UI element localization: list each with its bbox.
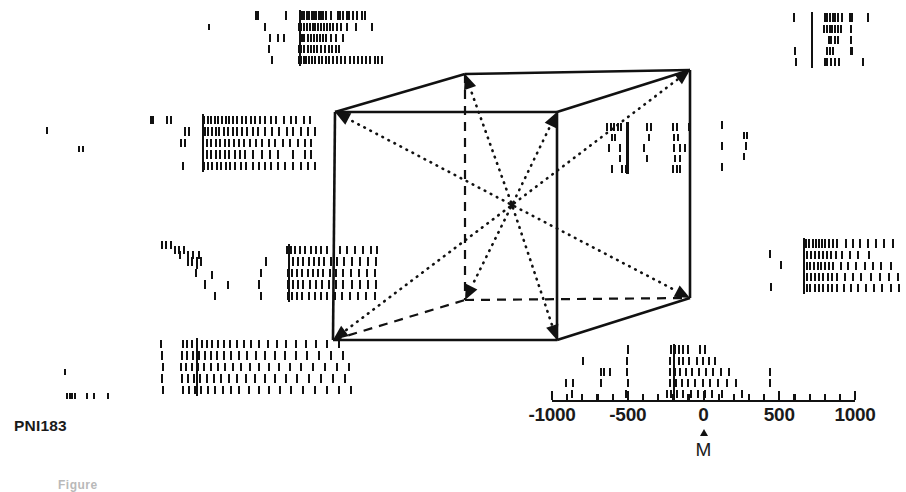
- axis-tick-minor: [581, 394, 583, 400]
- spike-mark: [332, 56, 334, 64]
- spike-mark: [685, 368, 687, 376]
- spike-mark: [669, 357, 671, 365]
- spike-mark: [249, 139, 251, 148]
- spike-mark: [845, 239, 847, 247]
- spike-mark: [234, 150, 236, 159]
- spike-mark: [250, 340, 252, 349]
- spike-mark: [252, 162, 254, 171]
- spike-mark: [216, 162, 218, 171]
- spike-mark: [682, 390, 684, 398]
- axis-tick-major: [703, 391, 705, 400]
- spike-mark: [745, 142, 747, 150]
- spike-mark: [735, 379, 737, 387]
- spike-mark: [225, 162, 227, 171]
- spike-mark: [326, 246, 328, 255]
- spike-mark: [880, 262, 882, 270]
- axis-tick-minor: [642, 394, 644, 400]
- spike-mark: [320, 45, 322, 53]
- spike-mark: [830, 58, 832, 66]
- spike-mark: [679, 368, 681, 376]
- spike-mark: [162, 363, 164, 372]
- spike-mark: [676, 123, 678, 131]
- spike-mark: [161, 351, 163, 360]
- center-to-corner-arrow-shaft: [470, 88, 511, 202]
- spike-mark: [769, 250, 771, 258]
- spike-mark: [182, 386, 184, 395]
- spike-mark: [342, 34, 344, 42]
- spike-mark: [283, 116, 285, 125]
- spike-mark: [837, 13, 839, 21]
- spike-mark: [369, 56, 371, 64]
- spike-mark: [897, 273, 899, 281]
- center-to-corner-arrow-head: [464, 74, 476, 90]
- spike-mark: [304, 246, 306, 255]
- spike-mark: [359, 257, 361, 266]
- center-to-corner-arrow-head: [465, 284, 477, 300]
- spike-mark: [836, 284, 838, 292]
- raster-back-bottom-left: [158, 338, 358, 396]
- spike-mark: [187, 374, 189, 383]
- axis-tick-label: -1000: [528, 404, 575, 426]
- spike-mark: [277, 150, 279, 159]
- spike-mark: [320, 374, 322, 383]
- raster-trial-row: [158, 384, 358, 396]
- spike-mark: [342, 351, 344, 360]
- spike-mark: [270, 116, 272, 125]
- spike-mark: [162, 386, 164, 395]
- spike-mark: [221, 116, 223, 125]
- cube-edge-solid: [557, 298, 690, 340]
- raster-trial-row: [150, 270, 260, 280]
- spike-mark: [64, 369, 66, 375]
- spike-mark: [206, 340, 208, 349]
- spike-mark: [365, 56, 367, 64]
- spike-mark: [277, 34, 279, 42]
- spike-mark: [214, 292, 216, 301]
- spike-mark: [274, 351, 276, 360]
- raster-trial-row: [760, 260, 794, 271]
- spike-mark: [851, 13, 853, 21]
- spike-mark: [311, 56, 313, 64]
- spike-mark: [200, 386, 202, 395]
- spike-mark: [828, 262, 830, 270]
- spike-mark: [297, 280, 299, 289]
- spike-mark: [303, 34, 305, 42]
- spike-mark: [890, 284, 892, 292]
- spike-mark: [246, 351, 248, 360]
- spike-mark: [336, 363, 338, 372]
- spike-mark: [217, 363, 219, 372]
- spike-mark: [371, 23, 373, 31]
- spike-mark: [335, 280, 337, 289]
- spike-mark: [211, 340, 213, 349]
- spike-mark: [619, 155, 621, 163]
- spike-mark: [210, 139, 212, 148]
- spike-mark: [611, 165, 613, 173]
- spike-mark: [335, 269, 337, 278]
- spike-mark: [818, 273, 820, 281]
- spike-mark: [232, 127, 234, 136]
- spike-mark: [806, 284, 808, 292]
- axis-tick-minor: [809, 394, 811, 400]
- spike-mark: [824, 262, 826, 270]
- spike-mark: [223, 340, 225, 349]
- spike-mark: [277, 162, 279, 171]
- spike-mark: [214, 386, 216, 395]
- spike-mark: [225, 116, 227, 125]
- spike-mark: [814, 273, 816, 281]
- spike-mark: [224, 150, 226, 159]
- spike-mark: [165, 241, 167, 248]
- raster-front-top-left: [148, 114, 328, 172]
- raster-trial-row: [196, 49, 236, 58]
- spike-mark: [323, 257, 325, 266]
- cube-center-origin: [510, 203, 515, 208]
- spike-mark: [743, 153, 745, 161]
- raster-trial-row: [196, 32, 236, 41]
- raster-event-marker: [626, 122, 628, 174]
- spike-mark: [818, 239, 820, 247]
- raster-outlier-top-strip: [196, 14, 236, 58]
- spike-mark: [292, 127, 294, 136]
- spike-mark: [268, 139, 270, 148]
- spike-mark: [364, 11, 366, 19]
- spike-mark: [268, 386, 270, 395]
- spike-mark: [264, 116, 266, 125]
- spike-mark: [340, 56, 342, 64]
